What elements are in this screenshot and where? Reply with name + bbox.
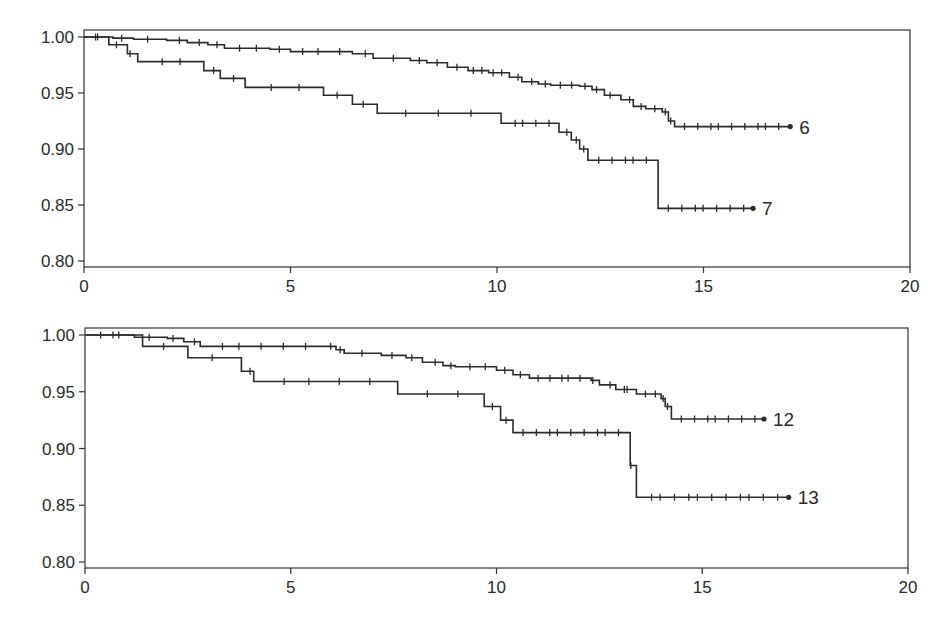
curve-end-marker (788, 124, 793, 129)
survival-curve-6: 6 (84, 34, 810, 138)
y-tick-label: 0.90 (41, 140, 74, 159)
plot-frame (85, 328, 908, 568)
x-tick-label: 5 (286, 277, 295, 296)
y-tick-label: 0.90 (42, 440, 75, 459)
y-tick-label: 0.95 (42, 383, 75, 402)
step-line (84, 37, 753, 208)
curve-label-13: 13 (798, 487, 819, 508)
y-tick-label: 1.00 (42, 326, 75, 345)
x-tick-label: 0 (80, 578, 89, 597)
chart-bottom-canvas: 0.800.850.900.951.00051015201213 (0, 300, 942, 630)
step-line (85, 335, 789, 497)
x-tick-label: 5 (286, 578, 295, 597)
plot-frame (84, 30, 910, 267)
survival-chart-bottom: 0.800.850.900.951.00051015201213 (0, 300, 942, 630)
curve-label-6: 6 (799, 117, 810, 138)
y-tick-label: 0.80 (41, 252, 74, 271)
curve-end-marker (786, 495, 791, 500)
x-tick-label: 10 (488, 277, 507, 296)
survival-chart-top: 0.800.850.900.951.000510152067 (0, 0, 942, 315)
curve-label-12: 12 (773, 409, 794, 430)
survival-curve-12: 12 (85, 332, 794, 430)
x-tick-label: 15 (694, 277, 713, 296)
curve-end-marker (761, 416, 766, 421)
x-tick-label: 0 (79, 277, 88, 296)
y-tick-label: 0.85 (42, 496, 75, 515)
step-line (85, 335, 764, 419)
survival-curve-7: 7 (84, 34, 773, 220)
curve-label-7: 7 (762, 198, 773, 219)
curve-end-marker (750, 206, 755, 211)
y-tick-label: 0.85 (41, 196, 74, 215)
y-tick-label: 0.80 (42, 553, 75, 572)
x-tick-label: 20 (899, 578, 918, 597)
survival-curve-13: 13 (85, 332, 819, 509)
x-tick-label: 15 (693, 578, 712, 597)
y-tick-label: 0.95 (41, 84, 74, 103)
y-tick-label: 1.00 (41, 28, 74, 47)
x-tick-label: 20 (901, 277, 920, 296)
x-tick-label: 10 (487, 578, 506, 597)
chart-top-canvas: 0.800.850.900.951.000510152067 (0, 0, 942, 315)
